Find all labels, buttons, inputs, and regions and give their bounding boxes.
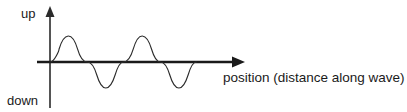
arrow-up-icon: [46, 6, 55, 17]
arrow-right-icon: [232, 57, 245, 68]
wave-diagram-canvas: [0, 0, 407, 112]
axis-label-up: up: [21, 7, 35, 20]
axis-label-position: position (distance along wave): [223, 71, 405, 85]
axis-label-down: down: [7, 94, 38, 107]
wave-diagram: up down position (distance along wave): [0, 0, 407, 112]
